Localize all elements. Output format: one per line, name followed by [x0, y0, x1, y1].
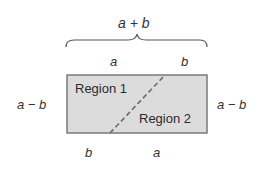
region-1-label: Region 1	[75, 82, 127, 95]
top-segment-b: b	[181, 55, 188, 68]
brace	[66, 34, 207, 47]
diagram: a + b a b a − b a − b Region 1 Region 2 …	[0, 0, 266, 169]
region-2-label: Region 2	[139, 112, 191, 125]
left-label: a − b	[17, 98, 46, 111]
bottom-segment-a: a	[153, 146, 160, 159]
bottom-segment-b: b	[85, 146, 92, 159]
top-label: a + b	[118, 16, 150, 30]
right-label: a − b	[217, 98, 246, 111]
top-segment-a: a	[110, 55, 117, 68]
